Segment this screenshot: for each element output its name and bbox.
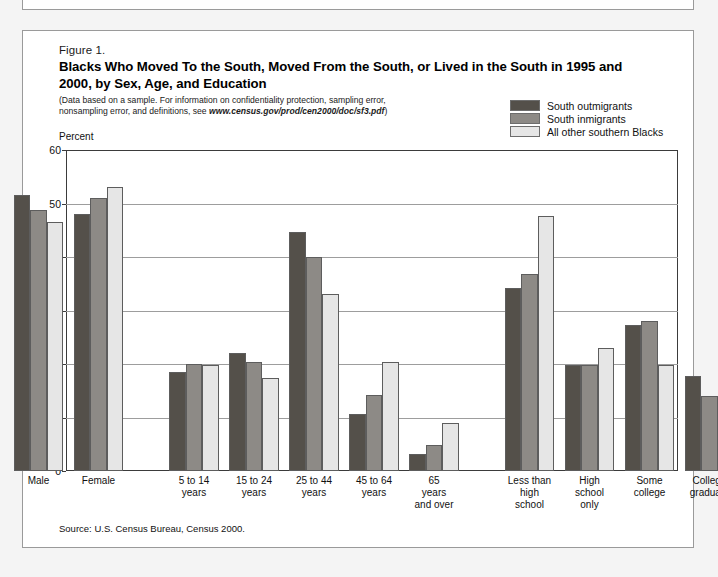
bar bbox=[74, 214, 91, 471]
legend-swatch-icon bbox=[510, 100, 540, 111]
y-tick-label: 60 bbox=[49, 144, 61, 156]
figure-panel: Figure 1. Blacks Who Moved To the South,… bbox=[22, 30, 694, 548]
bar bbox=[30, 210, 47, 471]
bar bbox=[186, 364, 203, 471]
figure-note: (Data based on a sample. For information… bbox=[59, 95, 479, 117]
x-axis-label: 5 to 14 years bbox=[179, 475, 210, 499]
bar bbox=[426, 445, 443, 471]
bar bbox=[246, 362, 263, 471]
bar bbox=[658, 365, 675, 471]
bar bbox=[409, 454, 426, 471]
bar bbox=[565, 365, 582, 471]
x-axis-label: 45 to 64 years bbox=[356, 475, 392, 499]
bar bbox=[262, 378, 279, 471]
y-tick-label: 50 bbox=[49, 198, 61, 210]
bar bbox=[505, 288, 522, 472]
bar bbox=[322, 294, 339, 471]
bar bbox=[169, 372, 186, 471]
bar bbox=[306, 257, 323, 471]
bar bbox=[366, 395, 383, 472]
figure-note-line1: (Data based on a sample. For information… bbox=[59, 95, 386, 105]
bar bbox=[107, 187, 124, 471]
bar bbox=[701, 396, 718, 471]
bar bbox=[202, 365, 219, 471]
legend-item: South outmigrants bbox=[510, 99, 690, 112]
bar bbox=[641, 321, 658, 471]
x-axis-label: College graduate bbox=[690, 475, 718, 499]
legend-swatch-icon bbox=[510, 113, 540, 124]
bar bbox=[229, 353, 246, 471]
x-axis-label: Female bbox=[82, 475, 115, 487]
x-axis-label: 65 years and over bbox=[415, 475, 454, 511]
legend-item: South inmigrants bbox=[510, 112, 690, 125]
figure-number: Figure 1. bbox=[59, 44, 105, 56]
x-axis-label: Male bbox=[28, 475, 50, 487]
bar bbox=[47, 222, 64, 471]
bar bbox=[685, 376, 702, 471]
bar bbox=[521, 274, 538, 471]
figure-source: Source: U.S. Census Bureau, Census 2000. bbox=[59, 523, 245, 534]
bars-layer bbox=[66, 150, 678, 471]
x-axis-label: Some college bbox=[634, 475, 666, 499]
legend-item-label: South inmigrants bbox=[547, 113, 626, 125]
bar bbox=[442, 423, 459, 471]
x-axis-label: 25 to 44 years bbox=[296, 475, 332, 499]
figure-note-url: www.census.gov/prod/cen2000/doc/sf3.pdf bbox=[209, 106, 384, 116]
bar bbox=[289, 232, 306, 471]
figure-note-line2-prefix: nonsampling error, and definitions, see bbox=[59, 106, 209, 116]
bar bbox=[538, 216, 555, 471]
figure-title: Blacks Who Moved To the South, Moved Fro… bbox=[59, 59, 649, 92]
bar bbox=[598, 348, 615, 471]
bar bbox=[581, 365, 598, 471]
bar bbox=[14, 195, 31, 471]
legend-item: All other southern Blacks bbox=[510, 125, 690, 138]
legend-item-label: South outmigrants bbox=[547, 100, 632, 112]
x-axis-label: Less than high school bbox=[508, 475, 551, 511]
bar bbox=[349, 414, 366, 471]
chart-legend: South outmigrantsSouth inmigrantsAll oth… bbox=[510, 99, 690, 138]
top-partial-panel bbox=[22, 0, 694, 10]
x-axis-label: 15 to 24 years bbox=[236, 475, 272, 499]
y-axis-title: Percent bbox=[59, 131, 93, 142]
bar bbox=[90, 198, 107, 471]
screenshot-root: Figure 1. Blacks Who Moved To the South,… bbox=[0, 0, 718, 577]
bar bbox=[625, 325, 642, 471]
plot-area: 0102030405060 bbox=[66, 150, 678, 471]
legend-swatch-icon bbox=[510, 126, 540, 137]
y-tick-mark bbox=[62, 471, 66, 472]
bar bbox=[382, 362, 399, 471]
x-axis-label: High school only bbox=[575, 475, 604, 511]
figure-note-line2-suffix: ) bbox=[384, 106, 387, 116]
legend-item-label: All other southern Blacks bbox=[547, 126, 663, 138]
